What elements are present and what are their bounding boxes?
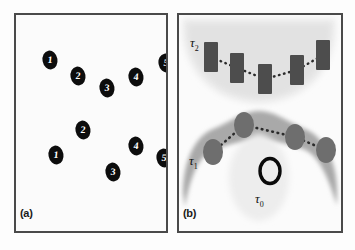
token-top-1: 1 [41,49,59,70]
tau2-subscript: 2 [195,44,199,53]
token-label: 2 [75,71,81,81]
token-label: 4 [133,72,139,82]
token-bot-2: 2 [74,119,92,140]
tau0-subscript: 0 [260,200,264,209]
token-top-3: 3 [98,77,116,98]
tau1-marker-3 [285,124,305,150]
token-label: 3 [104,83,110,93]
token-top-4: 4 [127,66,145,87]
panel-a-caption: (a) [20,207,33,219]
token-bot-3: 3 [104,161,122,182]
token-bot-4: 4 [127,135,145,156]
token-label: 1 [47,55,53,65]
panel-a: 1 2 3 4 5 2 1 4 5 3 (a) [14,13,168,233]
token-label: 5 [161,153,167,163]
panel-b: τ2 τ1 τ0 (b) [177,13,343,233]
tau1-marker-1 [203,139,223,165]
tau0-label: τ0 [255,191,264,209]
tau2-marker-4 [290,55,304,85]
tau2-marker-5 [316,40,330,70]
token-label: 1 [53,150,59,160]
tau2-label: τ2 [190,35,199,53]
token-top-2: 2 [69,65,87,86]
token-label: 3 [110,167,116,177]
token-label: 2 [80,125,86,135]
tau1-label: τ1 [189,153,198,171]
tau1-marker-2 [234,112,254,138]
tau2-marker-1 [204,42,218,72]
figure-root: 1 2 3 4 5 2 1 4 5 3 (a) [0,0,355,250]
token-bot-1: 1 [47,144,65,165]
tau1-marker-4 [316,137,336,163]
tau2-marker-2 [230,53,244,83]
tau1-subscript: 1 [194,162,198,171]
token-top-5: 5 [157,52,168,73]
token-bot-5: 5 [155,147,168,168]
panel-b-caption: (b) [183,207,196,219]
tau2-marker-3 [258,64,272,94]
token-label: 5 [163,58,168,68]
token-label: 4 [133,141,139,151]
